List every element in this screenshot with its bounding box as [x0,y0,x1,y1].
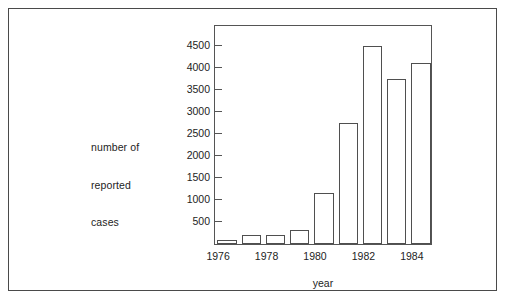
bar [387,79,406,244]
bar [242,235,261,244]
y-axis-tick-label: 4500 [187,39,210,52]
x-axis-tick-label: 1984 [400,250,423,263]
y-axis-tick-label: 1000 [187,193,210,206]
y-axis-tick-label: 4000 [187,61,210,74]
bar-series [215,26,431,244]
plot-area: 50010001500200025003000350040004500 [214,25,432,245]
y-axis-label-line-2: reported [91,179,187,192]
y-axis-label-line-3: cases [91,216,187,229]
bar [411,63,430,244]
x-axis-tick-label: 1976 [206,250,229,263]
bar [266,235,285,244]
plot-inner: 50010001500200025003000350040004500 [215,26,431,244]
y-axis-tick-label: 3000 [187,105,210,118]
bar [339,123,358,244]
y-axis-tick-label: 1500 [187,171,210,184]
y-axis-label: number of reported cases [91,116,187,254]
x-axis-tick-label: 1980 [303,250,326,263]
y-axis-label-line-1: number of [91,141,187,154]
figure-frame: number of reported cases 500100015002000… [8,8,497,291]
y-axis-tick-label: 2500 [187,127,210,140]
y-axis-tick-label: 3500 [187,83,210,96]
bar [290,230,309,244]
x-axis-tick-label: 1978 [255,250,278,263]
bar [217,240,236,244]
bar [363,46,382,244]
y-axis-tick-label: 2000 [187,149,210,162]
x-axis-label: year [214,277,432,289]
figure-page: number of reported cases 500100015002000… [0,0,507,304]
x-axis-tick-label: 1982 [352,250,375,263]
y-axis-tick-label: 500 [192,215,210,228]
bar [314,193,333,244]
